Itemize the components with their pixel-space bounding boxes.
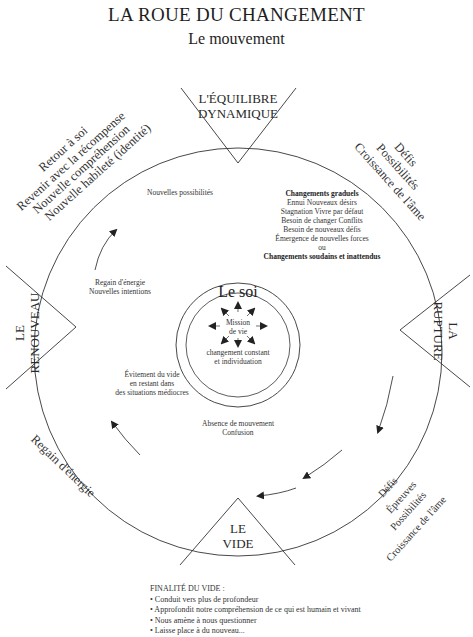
arrow-avoidance (112, 422, 140, 455)
quadrant-left-label: LE RENOUVEAU (12, 288, 42, 378)
gradual-changes-line-1: Ennui Nouveaux désirs (262, 198, 382, 207)
arrow-rupture-3 (258, 488, 296, 496)
avoidance-line-2: en restant dans (102, 379, 202, 388)
quadrant-right-line2: RUPTURE (431, 291, 446, 371)
label-new-possibilities: Nouvelles possibilités (130, 188, 230, 197)
gradual-changes-line-4: Besoin de nouveaux défis (262, 225, 382, 234)
gradual-changes-line-2: Stagnation Vivre par défaut (262, 207, 382, 216)
void-purpose-item: Laisse place à du nouveau... (150, 626, 361, 637)
center-caption-line-2: et individuation (188, 357, 288, 366)
void-purpose-heading: FINALITÉ DU VIDE : (150, 584, 361, 595)
arrow-rupture-2 (304, 450, 342, 478)
quadrant-top-line1: L'ÉQUILIBRE (190, 91, 286, 106)
mission-line-2: de vie (208, 327, 268, 336)
quadrant-bottom-label: LE VIDE (208, 521, 268, 551)
void-purpose-section: FINALITÉ DU VIDE : Conduit vers plus de … (150, 584, 361, 637)
quadrant-bottom-line2: VIDE (208, 536, 268, 551)
gradual-changes-line-6: ou (262, 243, 382, 252)
gradual-changes-line-3: Besoin de changer Conflits (262, 216, 382, 225)
center-caption: changement constant et individuation (188, 348, 288, 366)
renewal-line-1: Regain d'énergie (70, 278, 170, 287)
gradual-changes-line-5: Émergence de nouvelles forces (262, 234, 382, 243)
quadrant-top-line2: DYNAMIQUE (190, 106, 286, 121)
void-line-2: Confusion (188, 428, 288, 437)
quadrant-left-line2: RENOUVEAU (27, 288, 42, 378)
arrow-renewal (95, 230, 116, 270)
void-purpose-item: Approfondit notre compréhension de ce qu… (150, 605, 361, 616)
gradual-changes-heading: Changements graduels (262, 189, 382, 198)
quadrant-top-label: L'ÉQUILIBRE DYNAMIQUE (190, 91, 286, 121)
void-line-1: Absence de mouvement (188, 419, 288, 428)
void-purpose-item: Conduit vers plus de profondeur (150, 595, 361, 606)
avoidance-line-3: des situations médiocres (102, 388, 202, 397)
arrow-rupture-1 (378, 376, 393, 432)
void-block: Absence de mouvement Confusion (188, 419, 288, 437)
void-purpose-list: Conduit vers plus de profondeur Approfon… (150, 595, 361, 637)
quadrant-right-label: LA RUPTURE (431, 291, 461, 371)
sudden-changes-label: Changements soudains et inattendus (262, 252, 382, 261)
mission-line-1: Mission (208, 318, 268, 327)
void-purpose-item: Nous amène à nous questionner (150, 616, 361, 627)
center-caption-line-1: changement constant (188, 348, 288, 357)
mission-block: Mission de vie (208, 318, 268, 336)
avoidance-line-1: Évitement du vide (102, 370, 202, 379)
gradual-changes-block: Changements graduels Ennui Nouveaux dési… (262, 189, 382, 261)
renewal-line-2: Nouvelles intentions (70, 287, 170, 296)
renewal-block: Regain d'énergie Nouvelles intentions (70, 278, 170, 296)
quadrant-right-line1: LA (446, 291, 461, 371)
center-title: Le soi (198, 283, 278, 301)
quadrant-left-line1: LE (12, 288, 27, 378)
avoidance-block: Évitement du vide en restant dans des si… (102, 370, 202, 397)
quadrant-bottom-line1: LE (208, 521, 268, 536)
